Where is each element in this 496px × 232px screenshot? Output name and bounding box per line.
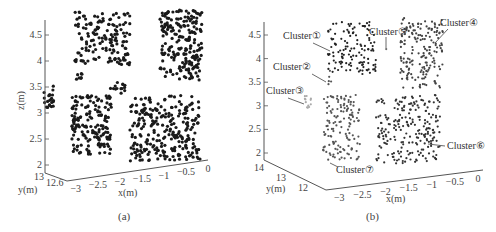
- point-cloud-a: [43, 9, 204, 163]
- y-axis-label-b: y(m): [266, 183, 285, 195]
- x-tick: −1.5: [400, 182, 418, 193]
- x-tick: −0.5: [177, 166, 195, 177]
- z-tick: 3.5: [249, 76, 262, 87]
- y-axis-label-a: y(m): [18, 184, 37, 196]
- z-tick: 4.5: [30, 29, 43, 40]
- z-tick: 2: [37, 159, 42, 170]
- z-axis-label-a: z(m): [15, 91, 27, 110]
- x-tick: −3: [70, 183, 81, 194]
- x-axis-label-b: x(m): [386, 193, 405, 205]
- panel-a-point-cloud: 22.533.544.5 −3−2.5−2−1.5−1−0.50 13 12.6…: [0, 0, 248, 232]
- z-tick: 4: [256, 53, 261, 64]
- y-tick-b-1: 13: [276, 172, 286, 183]
- x-ticks-a: −3−2.5−2−1.5−1−0.50: [70, 163, 210, 194]
- y-tick-b-0: 14: [254, 162, 264, 173]
- x-tick: −1: [426, 179, 437, 190]
- point-cloud-b: [304, 17, 444, 164]
- cluster-2-label: Cluster②: [273, 61, 311, 72]
- cluster-5-label: Cluster⑤: [369, 26, 407, 37]
- z-tick: 4: [37, 55, 42, 66]
- x-tick: −0.5: [446, 176, 464, 187]
- cluster-6-label: Cluster⑥: [447, 140, 485, 151]
- y-tick-a-1: 12.6: [46, 177, 64, 188]
- z-tick: 4.5: [249, 29, 262, 40]
- x-tick: 0: [476, 173, 481, 184]
- cluster-annotations: Cluster① Cluster② Cluster③ Cluster④ Clus…: [266, 17, 485, 175]
- z-tick: 2.5: [249, 123, 262, 134]
- z-tick: 3.5: [30, 81, 43, 92]
- cluster-4-label: Cluster④: [440, 17, 478, 28]
- x-tick: −3: [334, 192, 345, 203]
- z-tick: 3: [37, 107, 42, 118]
- cluster-7-label: Cluster⑦: [336, 164, 374, 175]
- x-tick: −2.5: [89, 179, 107, 190]
- scatter-plot-b: 22.533.544.5 −3−2.5−2−1.5−1−0.50 14 13 1…: [248, 0, 496, 232]
- x-tick: −1: [159, 170, 170, 181]
- x-tick: 0: [206, 163, 211, 174]
- caption-b: (b): [366, 210, 379, 222]
- caption-a: (a): [118, 210, 130, 222]
- x-axis-label-a: x(m): [118, 187, 137, 199]
- z-tick: 3: [256, 100, 261, 111]
- cluster-3-label: Cluster③: [266, 85, 304, 96]
- x-tick: −1.5: [133, 173, 151, 184]
- y-tick-b-2: 12: [298, 182, 308, 193]
- z-tick: 2: [256, 147, 261, 158]
- y-tick-a-0: 13: [34, 171, 44, 182]
- scatter-plot-a: 22.533.544.5 −3−2.5−2−1.5−1−0.50 13 12.6…: [0, 0, 248, 232]
- z-ticks-a: 22.533.544.5: [30, 29, 50, 170]
- z-tick: 2.5: [30, 133, 43, 144]
- x-tick: −2.5: [353, 189, 371, 200]
- panel-b-clustered-point-cloud: 22.533.544.5 −3−2.5−2−1.5−1−0.50 14 13 1…: [248, 0, 496, 232]
- cluster-1-label: Cluster①: [283, 30, 321, 41]
- x-tick: −2: [115, 176, 126, 187]
- x-ticks-b: −3−2.5−2−1.5−1−0.50: [334, 173, 481, 203]
